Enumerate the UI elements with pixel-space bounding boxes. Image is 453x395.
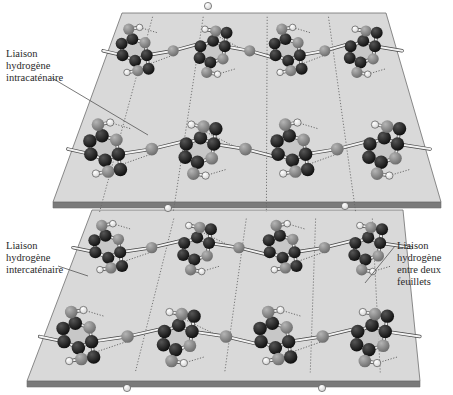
carbon-atom <box>207 35 219 47</box>
carbon-atom <box>286 154 299 167</box>
label-interchain-hbond: Liaisonhydrogèneintercaténaire <box>6 228 63 288</box>
carbon-atom <box>143 63 155 75</box>
carbon-atom <box>264 246 276 258</box>
carbon-atom <box>102 252 114 264</box>
oxygen-atom <box>113 234 124 245</box>
carbon-atom <box>116 38 128 50</box>
carbon-atom <box>374 156 387 169</box>
sheet-edge <box>53 202 441 208</box>
carbon-atom <box>270 49 282 61</box>
oxygen-atom <box>319 45 330 56</box>
oxygen-atom <box>377 339 390 352</box>
carbon-atom <box>117 49 129 61</box>
oxygen-atom <box>105 262 116 273</box>
carbon-atom <box>362 151 375 164</box>
hydrogen-atom <box>124 69 130 75</box>
carbon-atom <box>263 234 275 246</box>
hydrogen-atom <box>263 357 270 364</box>
oxygen-atom <box>201 67 212 78</box>
oxygen-atom <box>187 167 200 180</box>
oxygen-atom <box>331 143 344 156</box>
hydrogen-atom <box>280 170 287 177</box>
carbon-atom <box>114 246 126 258</box>
oxygen-atom <box>96 220 107 231</box>
carbon-atom <box>88 234 100 246</box>
oxygen-atom <box>351 67 362 78</box>
oxygen-atom <box>175 308 188 321</box>
oxygen-atom <box>276 24 287 35</box>
hydrogen-atom <box>66 357 73 364</box>
carbon-atom <box>349 237 361 249</box>
hydrogen-atom <box>185 222 192 229</box>
carbon-atom <box>379 325 392 338</box>
oxygen-atom <box>272 353 285 366</box>
label-intersheet-hbond: Liaisonhydrogèneentre deuxfeuillets <box>397 228 441 300</box>
carbon-atom <box>348 249 360 261</box>
oxygen-atom <box>381 120 394 133</box>
carbon-atom <box>209 122 222 135</box>
oxygen-atom <box>83 321 96 334</box>
carbon-atom <box>299 147 312 160</box>
carbon-atom <box>129 55 141 67</box>
carbon-atom <box>191 231 203 243</box>
carbon-atom <box>359 254 371 266</box>
carbon-atom <box>98 154 111 167</box>
oxygen-atom <box>365 222 376 233</box>
hydrogen-atom <box>97 266 104 273</box>
carbon-atom <box>381 309 394 322</box>
hydrogen-atom <box>289 24 295 30</box>
hydrogen-atom <box>277 69 283 75</box>
oxygen-atom <box>197 120 210 133</box>
oxygen-atom <box>205 152 218 165</box>
hydrogen-atom <box>110 220 117 227</box>
hydrogen-atom <box>341 202 348 209</box>
hydrogen-atom <box>365 71 371 77</box>
carbon-atom <box>254 335 267 348</box>
oxygen-atom <box>371 167 384 180</box>
oxygen-atom <box>369 308 382 321</box>
oxygen-atom <box>279 118 292 131</box>
carbon-atom <box>269 341 282 354</box>
hydrogen-atom <box>294 119 301 126</box>
carbon-atom <box>112 147 125 160</box>
carbon-atom <box>57 335 70 348</box>
oxygen-atom <box>184 339 197 352</box>
oxygen-atom <box>123 24 134 35</box>
hydrogen-atom <box>123 384 130 391</box>
sheet-bottom <box>27 210 420 392</box>
hydrogen-atom <box>359 308 366 315</box>
carbon-atom <box>290 260 302 272</box>
diagram-canvas <box>0 0 453 395</box>
carbon-atom <box>169 343 182 356</box>
oxygen-atom <box>289 165 302 178</box>
oxygen-atom <box>145 143 158 156</box>
oxygen-atom <box>360 25 371 36</box>
carbon-atom <box>376 223 388 235</box>
oxygen-atom <box>239 143 252 156</box>
hydrogen-atom <box>92 170 99 177</box>
carbon-atom <box>377 131 390 144</box>
carbon-atom <box>116 260 128 272</box>
oxygen-atom <box>356 264 367 275</box>
carbon-atom <box>221 27 233 39</box>
carbon-atom <box>203 237 215 249</box>
hydrogen-atom <box>166 308 173 315</box>
oxygen-atom <box>287 234 298 245</box>
hydrogen-atom <box>80 306 87 313</box>
oxygen-atom <box>280 321 293 334</box>
carbon-atom <box>277 252 289 264</box>
oxygen-atom <box>319 242 330 253</box>
carbon-atom <box>371 27 383 39</box>
carbon-atom <box>191 156 204 169</box>
oxygen-atom <box>146 242 157 253</box>
carbon-atom <box>274 230 286 242</box>
carbon-atom <box>205 223 217 235</box>
carbon-atom <box>350 338 363 351</box>
sheet-top <box>53 2 441 212</box>
hydrogen-atom <box>136 24 142 30</box>
hydrogen-atom <box>198 268 205 275</box>
oxygen-atom <box>102 165 115 178</box>
label-intrachain-hbond: Liaisonhydrogèneintracaténaire <box>6 36 63 96</box>
carbon-atom <box>351 325 364 338</box>
carbon-atom <box>282 335 295 348</box>
